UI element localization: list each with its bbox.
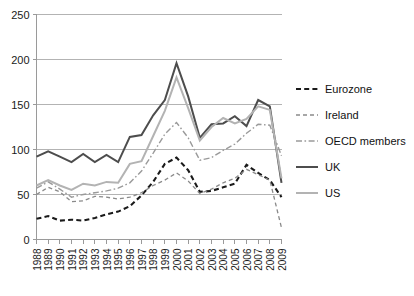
x-tick-label: 1990 (55, 248, 66, 271)
legend-label-us: US (325, 187, 340, 199)
x-tick-label: 1995 (113, 248, 124, 271)
x-tick-label: 2000 (172, 248, 183, 271)
x-tick-label: 1989 (43, 248, 54, 271)
x-tick-label: 1997 (137, 248, 148, 271)
x-tick-label: 1998 (148, 248, 159, 271)
x-tick-label: 2008 (265, 248, 276, 271)
gridlines (37, 15, 282, 240)
x-tick-label: 2001 (183, 248, 194, 271)
y-tick-label: 250 (11, 9, 29, 21)
x-tick-label: 1999 (160, 248, 171, 271)
series-line-ireland (37, 169, 282, 228)
x-tick-label: 2006 (242, 248, 253, 271)
x-tick-label: 1993 (90, 248, 101, 271)
x-axis: 1988198919901991199219931994199519961997… (32, 240, 288, 271)
x-tick-label: 1991 (67, 248, 78, 271)
y-tick-label: 200 (11, 54, 29, 66)
legend-label-uk: UK (325, 161, 341, 173)
y-tick-label: 150 (11, 99, 29, 111)
data-series-group (37, 63, 282, 228)
x-tick-label: 2007 (253, 248, 264, 271)
x-tick-label: 2004 (218, 248, 229, 271)
y-tick-label: 50 (17, 189, 29, 201)
chart-legend: EurozoneIrelandOECD membersUKUS (296, 83, 406, 199)
x-tick-label: 2003 (207, 248, 218, 271)
x-tick-label: 1988 (32, 248, 43, 271)
legend-label-ireland: Ireland (325, 109, 359, 121)
x-tick-label: 1996 (125, 248, 136, 271)
x-tick-label: 2002 (195, 248, 206, 271)
legend-label-eurozone: Eurozone (325, 83, 372, 95)
chart-container: 250200150100500 198819891990199119921993… (0, 0, 414, 296)
y-axis: 250200150100500 (11, 9, 36, 246)
x-tick-label: 2009 (277, 248, 288, 271)
x-tick-label: 2005 (230, 248, 241, 271)
line-chart: 250200150100500 198819891990199119921993… (0, 0, 414, 296)
x-tick-label: 1992 (78, 248, 89, 271)
x-tick-label: 1994 (102, 248, 113, 271)
legend-label-oecd-members: OECD members (325, 135, 406, 147)
y-tick-label: 100 (11, 144, 29, 156)
y-tick-label: 0 (23, 234, 29, 246)
